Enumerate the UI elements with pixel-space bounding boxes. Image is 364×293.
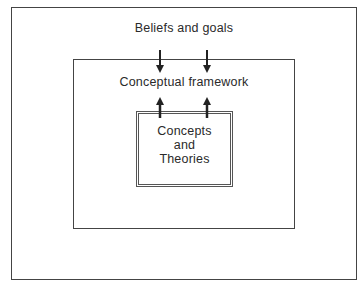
up-arrow-left-icon	[156, 97, 164, 118]
down-arrow-right-icon	[203, 50, 211, 73]
up-arrow-right-icon	[203, 97, 211, 118]
arrows-layer	[0, 0, 364, 293]
down-arrow-left-icon	[156, 50, 164, 73]
